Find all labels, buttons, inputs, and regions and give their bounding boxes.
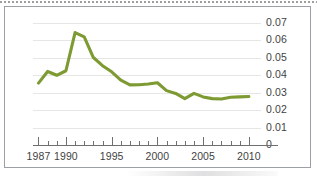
plot-area: 0.070.060.050.040.030.020.010 1987199019… bbox=[0, 0, 317, 179]
series-line-path bbox=[38, 33, 248, 99]
chart-screenshot: 0.070.060.050.040.030.020.010 1987199019… bbox=[0, 0, 317, 179]
data-series-svg bbox=[0, 0, 317, 179]
scan-artifact-smudge bbox=[128, 171, 278, 176]
